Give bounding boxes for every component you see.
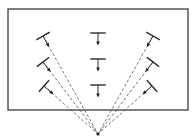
t-symbol-center-2 bbox=[91, 59, 105, 72]
dashed-ray bbox=[43, 62, 98, 134]
arrowhead-icon bbox=[96, 68, 100, 72]
t-symbol-left-1 bbox=[37, 33, 49, 47]
focal-point bbox=[96, 132, 99, 135]
dashed-ray bbox=[98, 62, 153, 134]
t-symbol-left-3 bbox=[39, 81, 53, 95]
t-symbol-right-1 bbox=[147, 33, 159, 47]
arrowhead-icon bbox=[96, 94, 100, 98]
t-symbol-center-1 bbox=[91, 33, 105, 46]
t-symbol-left-2 bbox=[37, 58, 50, 72]
arrowhead-icon bbox=[96, 42, 100, 46]
t-symbol-right-2 bbox=[145, 58, 158, 72]
dashed-ray bbox=[98, 36, 153, 134]
t-symbol-center-3 bbox=[91, 85, 105, 98]
t-symbols bbox=[37, 33, 159, 98]
t-symbol-right-3 bbox=[143, 81, 157, 95]
focus-diagram bbox=[0, 0, 192, 138]
dashed-ray bbox=[43, 36, 98, 134]
